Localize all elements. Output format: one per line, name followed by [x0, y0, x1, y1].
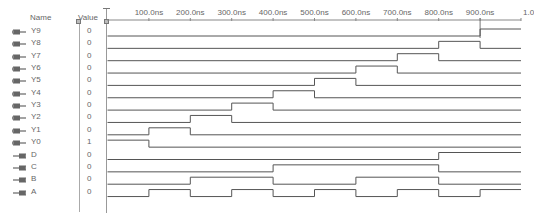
waveform-y9[interactable]: [108, 29, 522, 36]
waveform-area[interactable]: 100.0ns200.0ns300.0ns400.0ns500.0ns600.0…: [0, 0, 534, 219]
waveform-y7[interactable]: [108, 54, 522, 61]
ruler-tick-label: 800.0ns: [424, 8, 452, 17]
waveform-y1[interactable]: [108, 128, 522, 135]
ruler-tick-label: 500.0ns: [300, 8, 328, 17]
ruler-tick-label: 200.0ns: [176, 8, 204, 17]
waveform-d[interactable]: [108, 153, 522, 160]
ruler-tick-label: 700.0ns: [383, 8, 411, 17]
ruler-tick-label: 900.0ns: [466, 8, 494, 17]
waveform-y2[interactable]: [108, 115, 522, 122]
waveform-y8[interactable]: [108, 41, 522, 48]
waveform-y6[interactable]: [108, 66, 522, 73]
waveform-c[interactable]: [108, 165, 522, 172]
waveform-b[interactable]: [108, 177, 522, 184]
ruler-tick-label: 1.0: [523, 8, 534, 17]
ruler-tick-label: 300.0ns: [217, 8, 245, 17]
waveform-y3[interactable]: [108, 103, 522, 110]
ruler-tick-label: 100.0ns: [135, 8, 163, 17]
waveform-a[interactable]: [108, 190, 522, 197]
ruler-tick-label: 600.0ns: [342, 8, 370, 17]
waveform-y0[interactable]: [108, 140, 522, 147]
waveform-y5[interactable]: [108, 78, 522, 85]
ruler-tick-label: 400.0ns: [259, 8, 287, 17]
waveform-y4[interactable]: [108, 91, 522, 98]
